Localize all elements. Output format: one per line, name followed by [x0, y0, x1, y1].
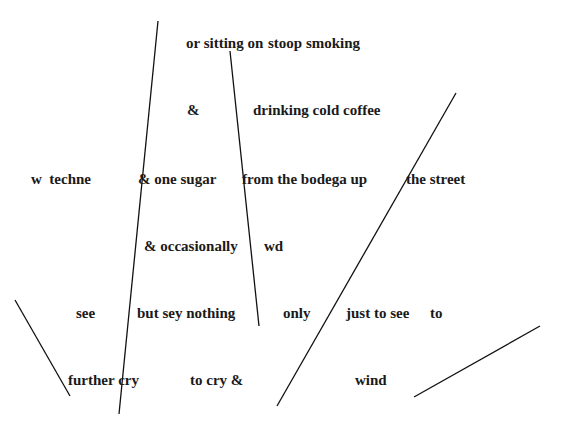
- poem-fragment: drinking cold coffee: [253, 101, 381, 119]
- slash-line: [119, 21, 158, 414]
- poem-strokes: [0, 0, 561, 434]
- slash-line: [230, 51, 259, 326]
- poem-fragment: stoop smoking: [268, 34, 360, 52]
- poem-fragment: from the bodega up: [242, 170, 367, 188]
- poem-fragment: & occasionally: [144, 237, 238, 255]
- poem-fragment: to: [430, 304, 443, 322]
- poem-fragment: but sey nothing: [137, 304, 235, 322]
- poem-fragment: or sitting on: [186, 34, 263, 52]
- poem-fragment: wind: [355, 371, 387, 389]
- poem-fragment: w techne: [31, 170, 91, 188]
- poem-fragment: &: [187, 101, 200, 119]
- slash-line: [277, 93, 456, 406]
- poem-fragment: the street: [406, 170, 465, 188]
- poem-fragment: further cry: [68, 371, 139, 389]
- poem-fragment: see: [76, 304, 95, 322]
- poem-fragment: only: [283, 304, 311, 322]
- poem-fragment: wd: [264, 237, 283, 255]
- poem-fragment: to cry &: [190, 371, 243, 389]
- poem-fragment: & one sugar: [138, 170, 216, 188]
- slash-line: [15, 300, 70, 396]
- slash-line: [414, 326, 540, 397]
- poem-fragment: just to see: [346, 304, 409, 322]
